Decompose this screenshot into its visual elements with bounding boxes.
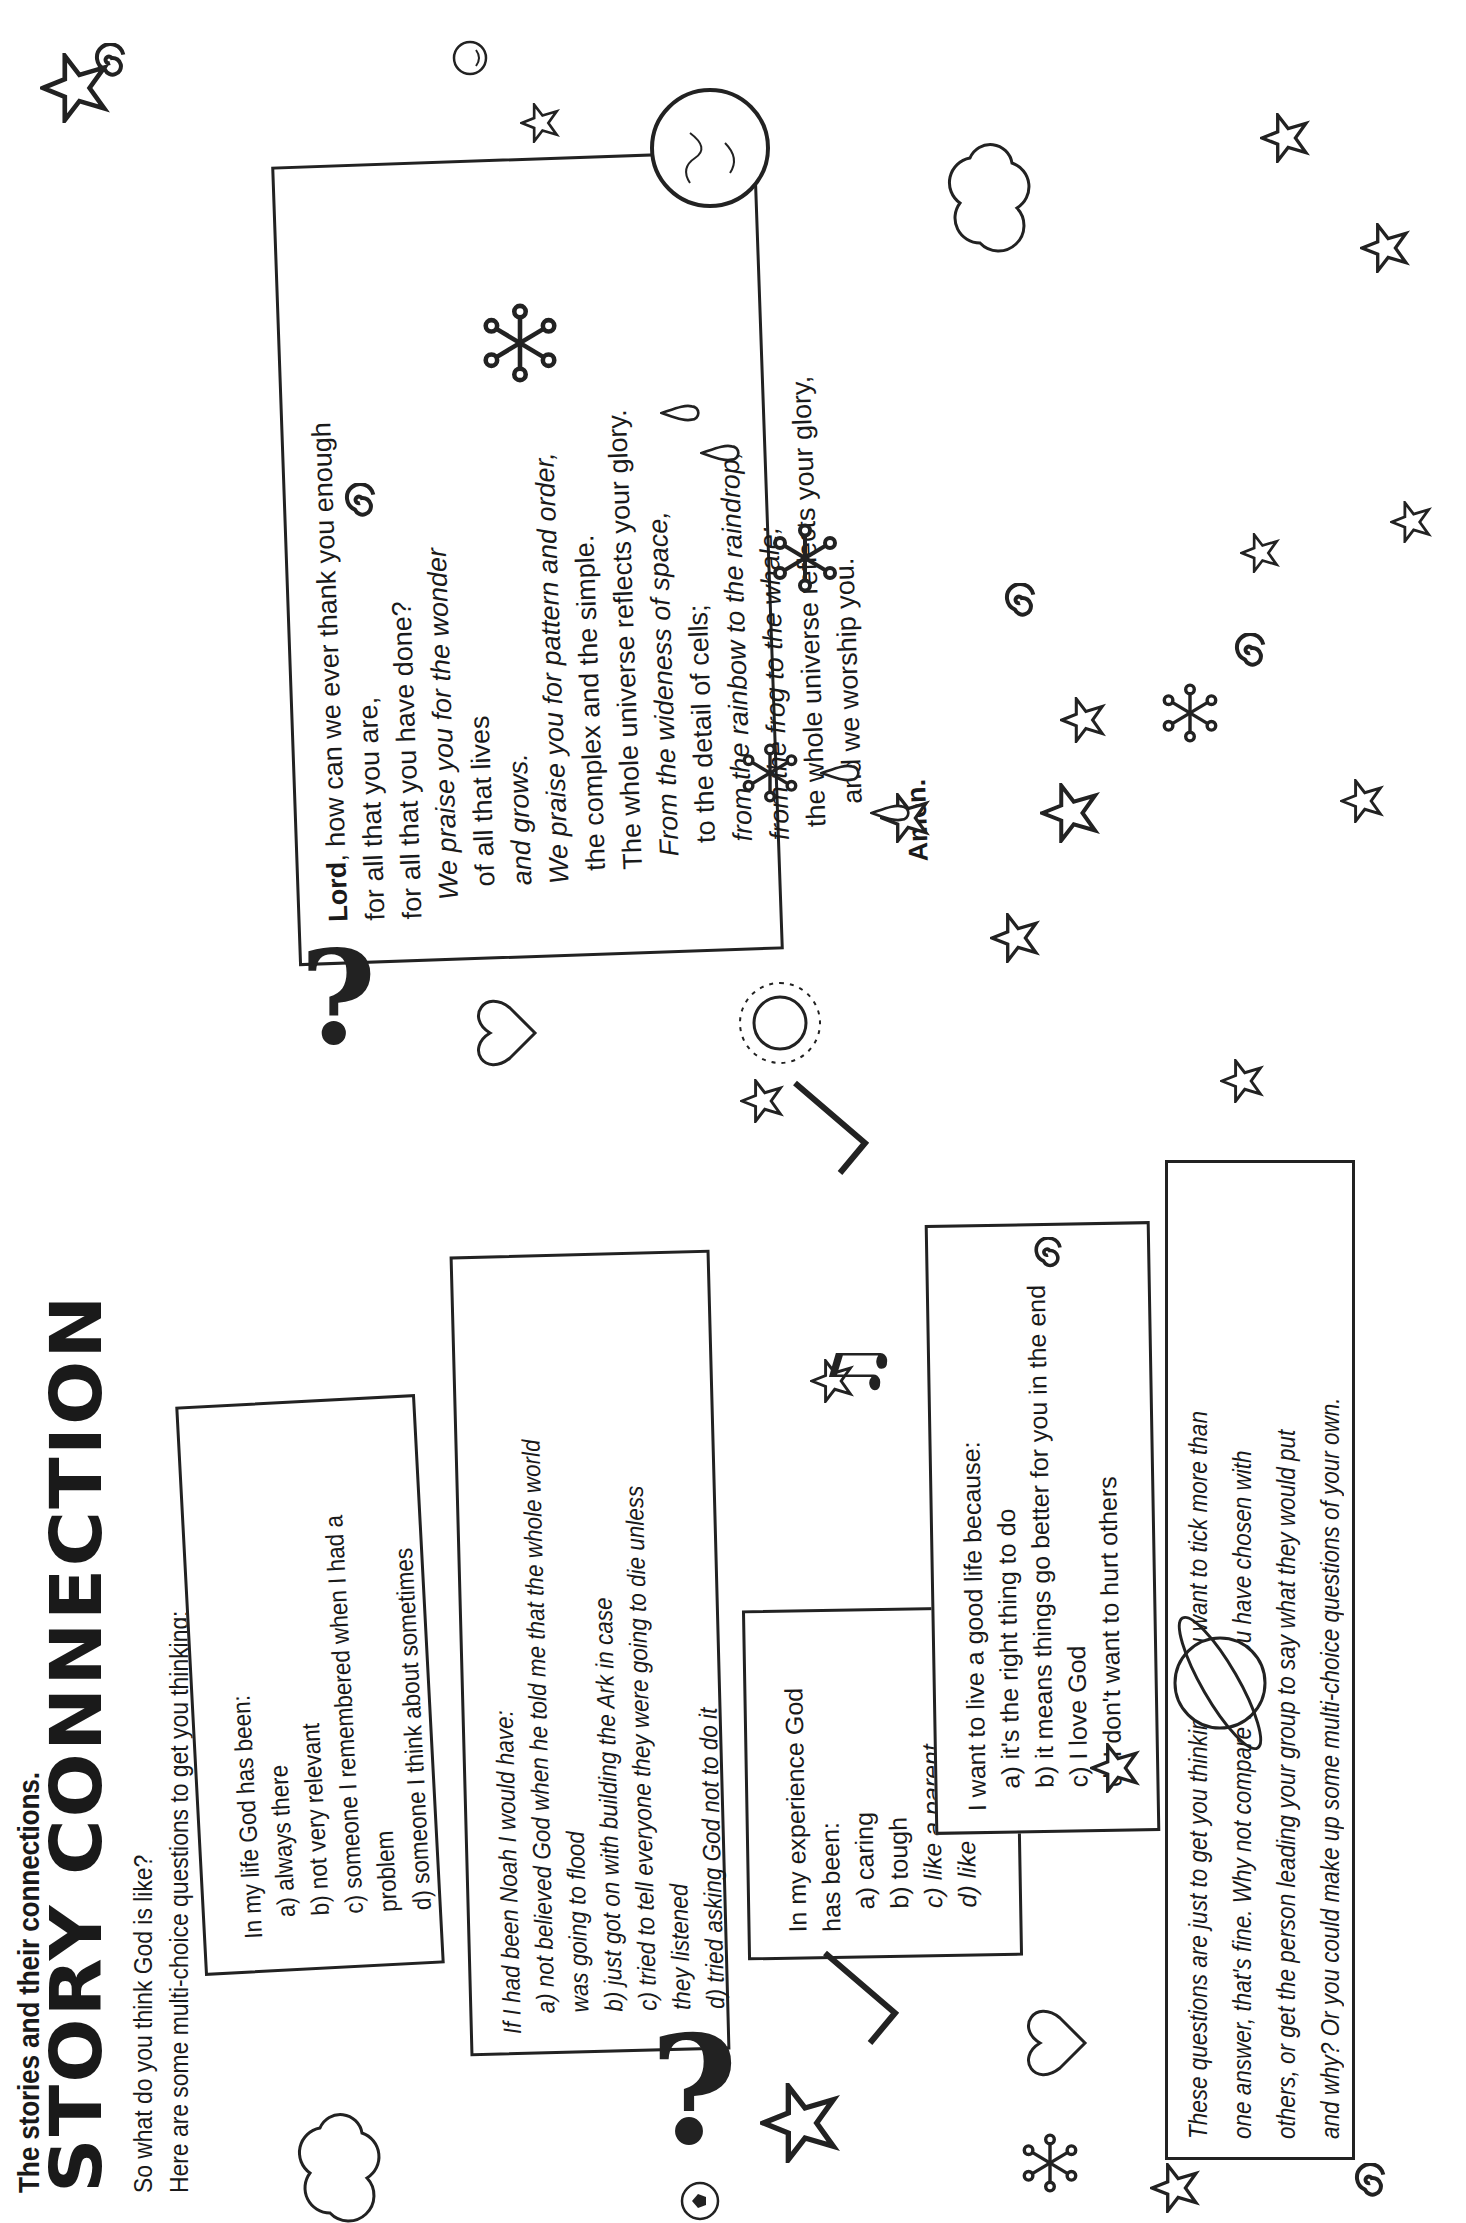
spiral-icon: [1036, 1238, 1060, 1265]
star-icon: [522, 105, 557, 142]
spiral-icon: [1237, 634, 1263, 665]
star-icon: [1152, 2165, 1196, 2211]
raindrop-icon: [702, 446, 739, 460]
star-icon: [742, 1081, 781, 1121]
spiral-icon: [347, 484, 373, 515]
asterisk-icon: [1164, 685, 1215, 741]
music-note-icon: ♫: [815, 1340, 897, 1403]
cloud-icon: [949, 145, 1029, 251]
heart-icon: [1029, 2011, 1085, 2074]
raindrop-icon: [872, 806, 909, 820]
spiral-icon: [1357, 2164, 1383, 2195]
smiley-icon: [454, 42, 486, 74]
tick-mark-icon: [795, 1083, 865, 1173]
star-icon: [763, 2086, 833, 2159]
planet-ring-icon: [1167, 1609, 1273, 1757]
star-icon: [992, 915, 1036, 961]
star-icon: [1242, 535, 1277, 572]
heart-icon: [479, 1001, 535, 1064]
asterisk-icon: [486, 306, 555, 380]
asterisk-icon: [775, 526, 835, 591]
svg-text:♫: ♫: [815, 1340, 897, 1403]
football-icon: [682, 2183, 718, 2219]
raindrop-icon: [822, 766, 859, 780]
spiral-icon: [1007, 584, 1033, 615]
cloud-icon: [299, 2115, 379, 2221]
star-icon: [43, 56, 104, 120]
doodle-layer: ? ? ♫: [0, 0, 1466, 2223]
star-icon: [1062, 699, 1102, 741]
star-icon: [1392, 503, 1429, 542]
star-icon: [1342, 781, 1381, 821]
star-icon: [1222, 1061, 1261, 1101]
sun-icon: [740, 983, 820, 1063]
asterisk-icon: [1024, 2135, 1075, 2191]
earth-globe-icon: [652, 90, 768, 206]
star-icon: [1262, 115, 1306, 161]
asterisk-icon: [744, 745, 795, 801]
question-mark-icon: ?: [650, 2002, 738, 2178]
svg-text:?: ?: [300, 921, 376, 1074]
star-icon: [1362, 225, 1406, 271]
svg-text:?: ?: [650, 2002, 738, 2178]
raindrop-icon: [662, 406, 699, 420]
star-icon: [1092, 1745, 1136, 1791]
question-mark-icon: ?: [300, 921, 376, 1074]
star-icon: [1043, 786, 1096, 841]
worksheet-page: The stories and their connections. STORY…: [0, 0, 1466, 2223]
tick-mark-icon: [825, 1953, 895, 2043]
